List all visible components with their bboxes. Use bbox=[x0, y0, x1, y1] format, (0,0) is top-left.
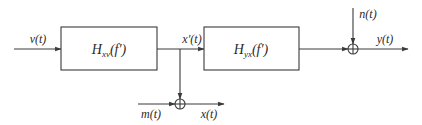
sum-measurement-junction bbox=[175, 99, 185, 109]
input-signal-label: v(t) bbox=[30, 32, 47, 46]
measurement-noise-label: m(t) bbox=[141, 107, 161, 121]
intermediate-signal-label: x′(t) bbox=[181, 32, 201, 46]
sum-output-junction bbox=[348, 44, 358, 54]
block-diagram: v(t) Hxv(f′) x′(t) m(t) x(t) Hyx(f′) n(t… bbox=[0, 0, 422, 125]
output-noise-label: n(t) bbox=[359, 7, 376, 21]
measured-output-label: x(t) bbox=[200, 107, 218, 121]
output-signal-label: y(t) bbox=[376, 32, 394, 46]
